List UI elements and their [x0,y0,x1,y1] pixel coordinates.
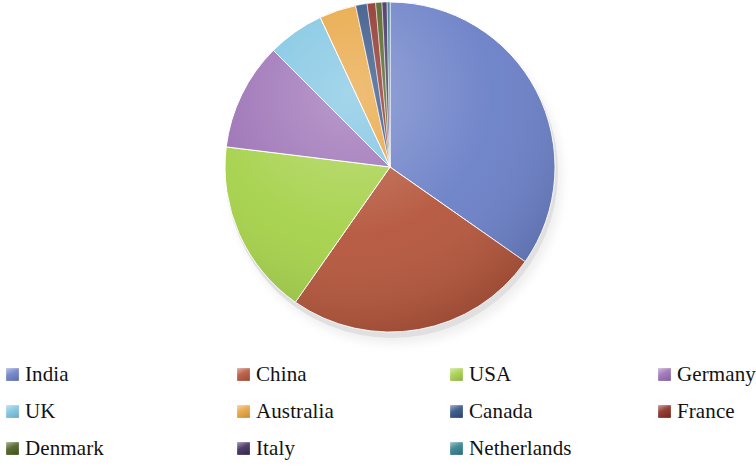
pie-slices-group [225,2,555,332]
legend-label-italy: Italy [256,437,295,460]
legend-swatch-uk [6,405,19,418]
legend-label-france: France [677,400,735,423]
legend-label-canada: Canada [469,400,533,423]
legend-label-denmark: Denmark [25,437,104,460]
legend-item-france[interactable]: France [650,400,755,423]
legend-swatch-china [237,368,250,381]
legend-item-germany[interactable]: Germany [650,363,755,386]
legend-item-netherlands[interactable]: Netherlands [440,437,650,460]
legend-swatch-netherlands [450,442,463,455]
legend-label-china: China [256,363,307,386]
legend-item-canada[interactable]: Canada [440,400,650,423]
legend-swatch-france [658,405,671,418]
legend-item-australia[interactable]: Australia [230,400,440,423]
legend-row: Denmark Italy Netherlands [0,430,755,467]
legend-swatch-australia [237,405,250,418]
legend-item-uk[interactable]: UK [0,400,230,423]
legend-label-uk: UK [25,400,56,423]
legend-swatch-germany [658,368,671,381]
legend-row: UK Australia Canada France [0,393,755,430]
chart-legend: India China USA Germany UK Australia Can… [0,352,755,468]
legend-item-india[interactable]: India [0,363,230,386]
legend-label-india: India [25,363,69,386]
legend-swatch-canada [450,405,463,418]
legend-swatch-italy [237,442,250,455]
legend-swatch-india [6,368,19,381]
legend-swatch-denmark [6,442,19,455]
legend-item-usa[interactable]: USA [440,363,650,386]
legend-swatch-usa [450,368,463,381]
legend-item-denmark[interactable]: Denmark [0,437,230,460]
legend-label-netherlands: Netherlands [469,437,572,460]
legend-label-germany: Germany [677,363,756,386]
pie-chart-area [0,0,755,352]
legend-label-australia: Australia [256,400,334,423]
pie-chart-svg [0,0,755,352]
legend-label-usa: USA [469,363,511,386]
legend-item-italy[interactable]: Italy [230,437,440,460]
legend-item-china[interactable]: China [230,363,440,386]
legend-row: India China USA Germany [0,356,755,393]
